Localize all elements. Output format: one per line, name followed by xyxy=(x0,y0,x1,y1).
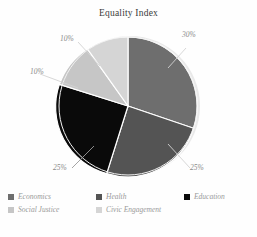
chart-title: Equality Index xyxy=(0,8,257,18)
legend-label-health: Health xyxy=(106,192,126,201)
pct-label-social-justice: 10% xyxy=(30,67,44,76)
legend-row-1: Economics Health Education xyxy=(8,190,257,203)
pie-plot-area: 30% 25% 25% 10% 10% xyxy=(0,22,257,187)
legend-swatch-icon-economics xyxy=(8,194,14,200)
pct-label-economics: 30% xyxy=(182,30,196,39)
pie-chart-card: Equality Index 30% 25% 25% 10% xyxy=(0,0,257,237)
legend-swatch-icon-education xyxy=(184,194,190,200)
legend-item-education[interactable]: Education xyxy=(184,192,257,201)
legend-item-economics[interactable]: Economics xyxy=(8,192,96,201)
chart-legend: Economics Health Education Social Justic… xyxy=(0,190,257,230)
pct-label-education: 25% xyxy=(53,163,67,172)
legend-item-health[interactable]: Health xyxy=(96,192,184,201)
legend-swatch-icon-health xyxy=(96,194,102,200)
legend-item-social-justice[interactable]: Social Justice xyxy=(8,205,96,214)
legend-label-civic-engagement: Civic Engagement xyxy=(106,205,161,214)
legend-swatch-icon-civic-engagement xyxy=(96,207,102,213)
legend-label-social-justice: Social Justice xyxy=(18,205,59,214)
pie-svg xyxy=(0,22,257,187)
legend-row-2: Social Justice Civic Engagement xyxy=(8,203,257,216)
legend-swatch-icon-social-justice xyxy=(8,207,14,213)
pct-label-health: 25% xyxy=(190,163,204,172)
legend-label-education: Education xyxy=(194,192,225,201)
pct-label-civic-engagement: 10% xyxy=(60,34,74,43)
legend-label-economics: Economics xyxy=(18,192,51,201)
legend-item-civic-engagement[interactable]: Civic Engagement xyxy=(96,205,184,214)
